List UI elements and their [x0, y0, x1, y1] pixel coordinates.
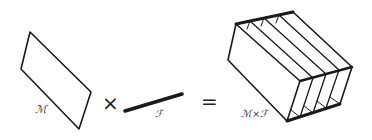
equals-operator: =	[201, 89, 218, 113]
base-manifold-shape	[21, 32, 91, 129]
product-space-label: ℳ×ℱ	[241, 108, 270, 119]
fiber-label: ℱ	[155, 108, 165, 119]
base-manifold-label: ℳ	[35, 103, 49, 116]
fiber-shape	[125, 94, 182, 111]
product-space-shape	[228, 12, 352, 121]
fiber-bundle-diagram: ℳ × ℱ =	[0, 0, 372, 140]
times-operator: ×	[102, 91, 119, 115]
diagram-svg: ℳ × ℱ =	[0, 0, 372, 140]
